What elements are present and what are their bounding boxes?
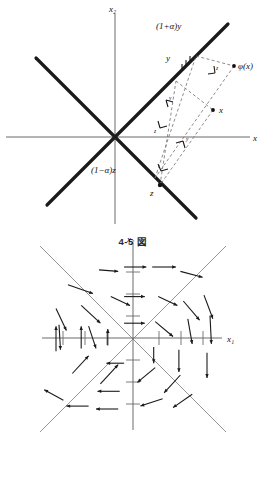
label-one-plus-alpha-y: (1+α)y [156, 21, 181, 31]
field-arrow-head [210, 340, 213, 344]
label-dash-z: z [153, 128, 157, 134]
label-dash-y: y [168, 95, 172, 101]
field-arrow-head [54, 326, 58, 330]
field-arrow-shaft [210, 316, 211, 344]
field-arrow-head [141, 322, 145, 325]
arrowhead-dash-5 [208, 66, 215, 74]
dash-y-to-phi [196, 56, 234, 66]
dash-y-to-x [176, 81, 213, 110]
field-arrow-head [98, 390, 102, 393]
field-arrow-head [140, 403, 144, 406]
vector-decomposition-svg: (1+α)y φ(x) y x (1−α)z z y z y z x₂ x [0, 0, 266, 232]
field-arrow-shaft [81, 305, 100, 323]
label-dash-z2: z [215, 65, 219, 71]
field-arrow-head [89, 291, 93, 294]
field-arrow-head [96, 407, 100, 411]
field-arrow-head [114, 269, 118, 272]
field-arrow-head [177, 368, 180, 372]
point-phi-x [232, 64, 236, 68]
field-arrow-head [80, 326, 83, 330]
label-axis-x2-bottom: x₂ [126, 234, 134, 244]
field-arrow-head [59, 346, 63, 350]
field-arrow-head [143, 265, 147, 269]
field-arrow-head [93, 344, 96, 348]
arrowhead-dash-2 [158, 121, 167, 128]
label-phi-x: φ(x) [238, 61, 253, 71]
label-y: y [165, 53, 170, 63]
phase-portrait-svg: x₂ x₁ [0, 232, 266, 440]
dash-x-to-z [160, 110, 213, 185]
label-dash-y2: y [185, 136, 189, 142]
field-arrow-head [190, 340, 193, 344]
field-arrow-head [141, 295, 145, 299]
point-z [158, 183, 162, 187]
label-axis-x1-bottom: x₁ [226, 334, 234, 344]
figure-vector-decomposition: (1+α)y φ(x) y x (1−α)z z y z y z x₂ x 4-… [0, 0, 266, 232]
label-z: z [149, 188, 154, 198]
label-x-point: x [218, 105, 223, 115]
figure-phase-portrait: x₂ x₁ [0, 232, 266, 442]
figure-page: (1+α)y φ(x) y x (1−α)z z y z y z x₂ x 4-… [0, 0, 266, 499]
label-axis-x2: x₂ [108, 4, 116, 14]
field-arrow-shaft [100, 365, 118, 384]
dash-phi-to-z [155, 66, 234, 178]
label-axis-x: x [252, 133, 257, 143]
label-one-minus-alpha-z: (1−α)z [91, 165, 116, 175]
arrowhead-dash-1 [166, 100, 173, 107]
field-arrow-head [172, 265, 176, 269]
field-arrow-head [205, 374, 208, 378]
diagonal-positive [47, 24, 228, 205]
point-x [211, 108, 215, 112]
field-arrow-head [106, 361, 110, 365]
